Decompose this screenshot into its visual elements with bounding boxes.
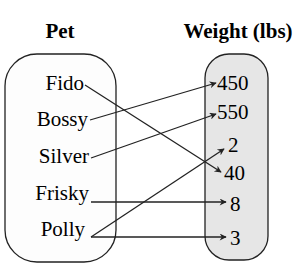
range-item-550: 550 xyxy=(217,100,249,124)
range-header: Weight (lbs) xyxy=(183,19,292,43)
range-item-3: 3 xyxy=(230,226,241,250)
range-item-450: 450 xyxy=(217,71,249,95)
range-item-2: 2 xyxy=(228,133,239,157)
domain-header: Pet xyxy=(45,19,74,43)
domain-item-fido: Fido xyxy=(45,71,84,95)
mapping-diagram: Pet Weight (lbs) Fido Bossy Silver Frisk… xyxy=(0,0,299,279)
domain-item-frisky: Frisky xyxy=(35,181,89,205)
range-item-40: 40 xyxy=(224,161,245,185)
range-item-8: 8 xyxy=(230,192,241,216)
domain-item-silver: Silver xyxy=(39,144,89,168)
domain-item-bossy: Bossy xyxy=(37,107,89,131)
domain-item-polly: Polly xyxy=(41,217,86,241)
